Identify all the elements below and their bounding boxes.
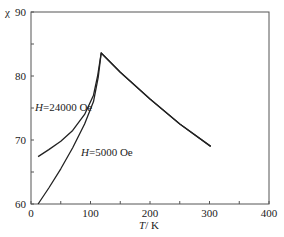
x-tick-label: 400 [261, 207, 278, 219]
chart: 60708090 0100200300400 χ T/ K H=24000 Oe… [0, 0, 284, 237]
series-line-1 [38, 53, 211, 204]
y-tick-label: 60 [15, 198, 27, 210]
y-tick-label: 80 [15, 70, 27, 82]
x-tick-label: 300 [201, 207, 218, 219]
x-tick-label: 200 [142, 207, 159, 219]
x-tick-label: 0 [28, 207, 34, 219]
x-axis-title: T/ K [139, 219, 159, 231]
annotation-h5000: H=5000 Oe [80, 146, 133, 158]
y-tick-label: 90 [15, 6, 27, 18]
annotation-h24000: H=24000 Oe [34, 101, 92, 113]
data-series [38, 53, 211, 204]
x-tick-label: 100 [82, 207, 99, 219]
y-axis-symbol: χ [4, 6, 10, 18]
y-tick-label: 70 [15, 134, 27, 146]
